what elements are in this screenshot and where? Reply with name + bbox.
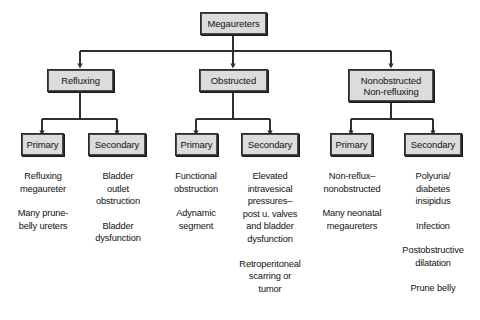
node-obstructed-primary-label: Primary <box>177 139 215 150</box>
node-nonobstructed-primary-label: Primary <box>332 139 370 150</box>
leaf-item: Elevated intravesical pressures– post u.… <box>228 170 312 246</box>
leaf-column-obstructed-primary: Functional obstruction Adynamic segment <box>158 170 234 232</box>
node-refluxing-primary[interactable]: Primary <box>21 133 64 156</box>
leaf-item: Postobstructive dilatation <box>390 244 476 269</box>
node-megaureters-label: Megaureters <box>204 18 262 29</box>
node-obstructed-primary[interactable]: Primary <box>175 133 218 156</box>
leaf-column-obstructed-secondary: Elevated intravesical pressures– post u.… <box>228 170 312 295</box>
leaf-item: Polyuria/ diabetes insipidus <box>390 170 476 208</box>
leaf-item: Infection <box>390 220 476 233</box>
node-refluxing-label: Refluxing <box>58 75 103 86</box>
leaf-item: Adynamic segment <box>158 207 234 232</box>
megaureters-flowchart: Megaureters Refluxing Obstructed Nonobst… <box>0 0 480 320</box>
leaf-column-refluxing-secondary: Bladder outlet obstruction Bladder dysfu… <box>80 170 156 245</box>
node-refluxing[interactable]: Refluxing <box>47 69 114 92</box>
node-nonobstructed-secondary-label: Secondary <box>408 139 459 150</box>
node-refluxing-primary-label: Primary <box>23 139 61 150</box>
leaf-item: Many prune- belly ureters <box>3 207 83 232</box>
node-nonobstructed-nonrefluxing[interactable]: Nonobstructed Non-refluxing <box>348 69 434 102</box>
leaf-item: Many neonatal megaureters <box>312 207 392 232</box>
node-obstructed-secondary-label: Secondary <box>245 139 296 150</box>
node-refluxing-secondary[interactable]: Secondary <box>88 133 146 156</box>
node-obstructed-label: Obstructed <box>208 75 259 86</box>
leaf-item: Functional obstruction <box>158 170 234 195</box>
leaf-item: Bladder outlet obstruction <box>80 170 156 208</box>
node-nonobstructed-nonrefluxing-label: Nonobstructed Non-refluxing <box>358 75 425 97</box>
leaf-item: Prune belly <box>390 282 476 295</box>
node-obstructed-secondary[interactable]: Secondary <box>241 133 299 156</box>
node-refluxing-secondary-label: Secondary <box>92 139 143 150</box>
leaf-item: Bladder dysfunction <box>80 220 156 245</box>
leaf-item: Retroperitoneal scarring or tumor <box>228 258 312 296</box>
leaf-item: Refluxing megaureter <box>3 170 83 195</box>
leaf-item: Non-reflux– nonobstructed <box>312 170 392 195</box>
node-megaureters[interactable]: Megaureters <box>200 12 267 35</box>
leaf-column-nonobstructed-secondary: Polyuria/ diabetes insipidus Infection P… <box>390 170 476 294</box>
leaf-column-nonobstructed-primary: Non-reflux– nonobstructed Many neonatal … <box>312 170 392 232</box>
node-nonobstructed-secondary[interactable]: Secondary <box>404 133 462 156</box>
leaf-column-refluxing-primary: Refluxing megaureter Many prune- belly u… <box>3 170 83 232</box>
node-obstructed[interactable]: Obstructed <box>199 69 268 92</box>
node-nonobstructed-primary[interactable]: Primary <box>330 133 373 156</box>
